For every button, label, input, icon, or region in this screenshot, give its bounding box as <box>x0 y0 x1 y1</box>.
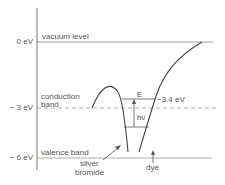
valence-band-label: valence band <box>41 148 89 157</box>
tick-minus6ev: − 6 eV <box>0 153 33 162</box>
vacuum-level-label: vacuum level <box>42 32 89 41</box>
conduction-band-label-2: band <box>41 100 59 109</box>
dye-arrow-icon <box>151 150 155 155</box>
energy-e-label: E <box>137 90 142 99</box>
tick-minus3ev: − 3 eV <box>0 103 33 112</box>
energy-diagram-canvas <box>0 0 225 185</box>
silver-bromide-label-2: bromide <box>75 168 104 177</box>
dye-label: dye <box>146 163 159 172</box>
photon-hv-label: hν <box>137 113 145 122</box>
tick-0ev: 0 eV <box>0 37 33 46</box>
dye-level-label: −3.4 eV <box>157 95 185 104</box>
silver-bromide-curve <box>92 86 128 152</box>
hv-arrow-icon <box>132 99 136 104</box>
silver-bromide-label-1: silver <box>80 159 99 168</box>
